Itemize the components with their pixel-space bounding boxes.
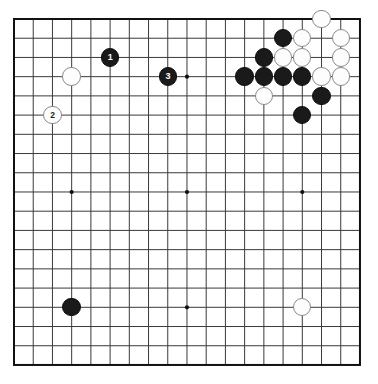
move-number-label: 1 [108, 53, 113, 62]
goban-grid[interactable] [0, 0, 378, 384]
star-point [185, 190, 189, 194]
star-point [185, 75, 189, 79]
stone-black[interactable] [235, 67, 253, 85]
stone-black-move-1[interactable]: 1 [101, 48, 119, 66]
stone-white[interactable] [255, 87, 273, 105]
move-number-label: 3 [165, 72, 170, 81]
move-number-label: 2 [50, 111, 54, 120]
star-point [185, 305, 189, 309]
star-point [70, 190, 74, 194]
stone-black[interactable] [312, 87, 330, 105]
stone-white[interactable] [312, 10, 330, 28]
stone-black[interactable] [255, 67, 273, 85]
stone-white[interactable] [312, 67, 330, 85]
stone-white[interactable] [332, 67, 350, 85]
go-board-diagram: 132 [0, 0, 378, 384]
stone-white-move-2[interactable]: 2 [43, 106, 61, 124]
stone-black-move-3[interactable]: 3 [159, 67, 177, 85]
stone-white[interactable] [332, 48, 350, 66]
stone-black[interactable] [255, 48, 273, 66]
stone-white[interactable] [274, 48, 292, 66]
star-point [300, 190, 304, 194]
stone-white[interactable] [293, 48, 311, 66]
stone-white[interactable] [62, 67, 80, 85]
stone-black[interactable] [274, 67, 292, 85]
